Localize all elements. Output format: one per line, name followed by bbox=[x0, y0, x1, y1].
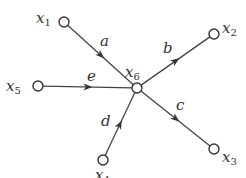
arrow-icon bbox=[170, 113, 179, 121]
arrow-icon bbox=[170, 58, 179, 66]
edge-label-b: b bbox=[163, 39, 173, 57]
node-label-x1: x1 bbox=[36, 9, 51, 28]
edge-label-d: d bbox=[101, 112, 111, 130]
node-label-x4: x4 bbox=[95, 166, 110, 178]
node-x5 bbox=[33, 81, 43, 91]
edge-label-a: a bbox=[100, 32, 109, 50]
labels-group: abcdex1x2x3x4x5x6 bbox=[6, 9, 237, 178]
edge-label-e: e bbox=[87, 67, 96, 85]
node-label-x5: x5 bbox=[6, 77, 21, 96]
node-x6 bbox=[132, 83, 142, 93]
signal-flow-graph: abcdex1x2x3x4x5x6 bbox=[0, 0, 246, 178]
node-label-x6: x6 bbox=[125, 63, 140, 82]
edges-group bbox=[43, 25, 210, 155]
node-label-x3: x3 bbox=[222, 148, 237, 167]
node-x2 bbox=[209, 29, 219, 39]
edge-label-c: c bbox=[176, 96, 185, 114]
node-x4 bbox=[98, 155, 108, 165]
node-label-x2: x2 bbox=[222, 19, 237, 38]
node-x1 bbox=[59, 17, 69, 27]
nodes-group bbox=[33, 17, 219, 165]
node-x3 bbox=[209, 144, 219, 154]
